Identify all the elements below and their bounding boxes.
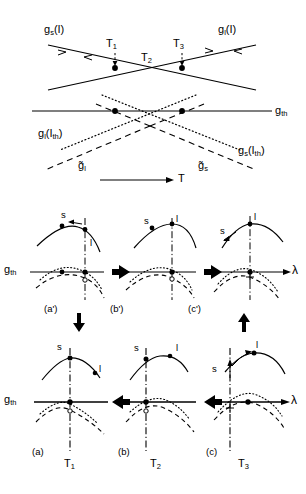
label-l-c-prime: l: [254, 212, 256, 222]
curve-gain-c-prime: [222, 224, 283, 248]
label-l-b: l: [176, 343, 178, 353]
figure-root: gs(I) gl(I) T1 T2 T3 gth gl(Ith) gs(Ith)…: [0, 0, 306, 494]
caption-a: (a): [32, 447, 44, 457]
label-l-a-prime: l: [90, 238, 92, 248]
line-gbar-l-upper: [96, 104, 150, 126]
figure-canvas: [0, 0, 306, 494]
marker-l-c: [252, 351, 257, 356]
curve-gain-a: [42, 358, 100, 380]
axis-T-arrowhead: [166, 177, 174, 183]
marker-open-b: [144, 409, 148, 413]
label-l-c: l: [256, 340, 258, 350]
arrow-up-right-column: [238, 313, 250, 332]
arrowhead-gl-I-right: [205, 48, 213, 53]
subcurve-dashed-a-prime: [36, 275, 104, 298]
marker-open-a-prime: [83, 278, 87, 282]
subcurve-dashed-b: [126, 406, 194, 432]
label-T1-top: T1: [106, 38, 117, 51]
label-T3-bottom: T3: [238, 458, 249, 471]
marker-axis-b-prime: [169, 269, 174, 274]
label-g-th-bottom: gth: [4, 394, 16, 407]
line-gl-Ith: [102, 95, 240, 150]
marker-T1-th: [112, 108, 118, 114]
marker-T3-th: [179, 108, 185, 114]
label-g-th-top: gth: [275, 105, 287, 118]
panel-b-prime: [126, 218, 196, 300]
marker-axis-a-prime: [82, 269, 87, 274]
marker-T3-cross: [179, 65, 185, 71]
label-g-th-middle: gth: [4, 264, 16, 277]
label-gs-Ith: gs(Ith): [238, 145, 265, 158]
label-s-a: s: [57, 342, 62, 352]
label-lambda-middle: λ: [292, 264, 298, 276]
caption-c-prime: (c'): [188, 304, 201, 314]
caption-b-prime: (b'): [110, 304, 123, 314]
label-l-b-prime: l: [176, 214, 178, 224]
panel-c: [214, 348, 290, 452]
marker-axis-c: [245, 399, 250, 404]
label-s-b-prime: s: [144, 216, 149, 226]
marker-open-a: [68, 409, 72, 413]
label-l-a: l: [99, 364, 101, 374]
arrow-down-left-column: [73, 313, 85, 332]
label-s-c: s: [212, 364, 217, 374]
axis-arrowhead-c-prime: [283, 269, 291, 275]
marker-axis-a: [67, 399, 72, 404]
axis-arrowhead-c: [281, 399, 290, 405]
marker-s-b-prime: [150, 226, 155, 231]
marker-l-b: [168, 354, 173, 359]
caption-a-prime: (a'): [44, 304, 57, 314]
arrowhead-up-c: [227, 359, 232, 366]
marker-l-a: [93, 371, 98, 376]
middle-row: [30, 216, 291, 300]
label-axis-T: T: [178, 173, 185, 184]
label-gl-Ith: gl(Ith): [38, 128, 62, 141]
marker-l-c-prime: [248, 222, 253, 227]
arrowhead-shift-a-prime: [68, 220, 74, 225]
subcurve-dashed-c-prime: [214, 276, 280, 300]
label-s-a-prime: s: [61, 210, 66, 220]
label-s-b: s: [134, 343, 139, 353]
subcurve-dotted-b-prime: [130, 268, 192, 290]
label-T2-bottom: T2: [150, 458, 161, 471]
marker-s-b: [144, 357, 149, 362]
label-gbar-l: g̃l: [78, 160, 86, 173]
arrowhead-shift-c-prime: [223, 236, 230, 241]
label-lambda-bottom: λ: [291, 394, 297, 406]
caption-b: (b): [118, 447, 130, 457]
label-gl-I: gl(I): [218, 24, 236, 37]
marker-axis-c-prime: [247, 269, 252, 274]
caption-c: (c): [206, 447, 217, 457]
panel-b: [126, 348, 196, 452]
marker-s-a: [68, 356, 73, 361]
curve-gain-b: [130, 356, 188, 380]
bottom-row: [34, 348, 290, 452]
label-gs-I: gs(I): [44, 24, 64, 37]
marker-open-b-prime: [170, 277, 174, 281]
marker-sub-a-prime: [60, 270, 65, 275]
marker-l-a-prime: [83, 227, 88, 232]
panel-c-prime: [214, 216, 291, 300]
label-s-c-prime: s: [220, 226, 225, 236]
label-T1-bottom: T1: [64, 458, 75, 471]
arrowhead-gs-I-right: [58, 50, 66, 55]
label-T3-top: T3: [173, 38, 184, 51]
line-gs-Ith: [60, 95, 196, 150]
line-gbar-s-upper: [150, 104, 204, 126]
subcurve-dotted-c: [218, 393, 282, 416]
label-gbar-s: g̃s: [198, 160, 208, 173]
marker-l-b-prime: [170, 222, 175, 227]
marker-s-a-prime: [60, 224, 65, 229]
curve-gain-b-prime: [134, 224, 196, 248]
panel-a: [34, 348, 108, 452]
marker-T1-cross: [112, 65, 118, 71]
marker-axis-b: [143, 399, 148, 404]
column-arrows: [73, 313, 250, 332]
arrowhead-gs-I-left: [84, 55, 92, 60]
marker-cross-c: [226, 404, 234, 413]
panel-a-prime: [30, 218, 104, 300]
subcurve-dashed-b-prime: [126, 275, 194, 298]
label-T2-top: T2: [141, 52, 152, 65]
top-panel: [32, 45, 272, 183]
